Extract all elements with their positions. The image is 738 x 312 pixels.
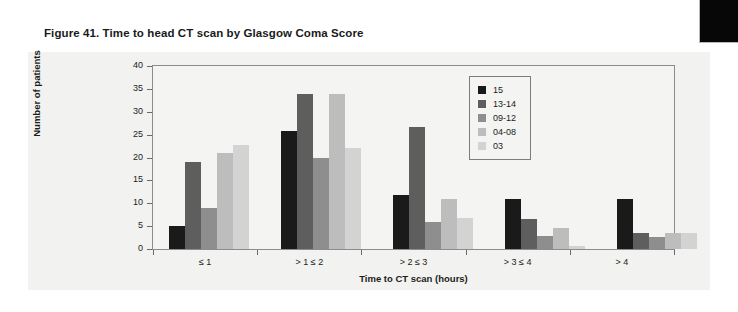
y-tick: 15 — [28, 180, 152, 181]
x-tick-mark — [361, 250, 362, 255]
legend-swatch-icon — [478, 100, 486, 108]
x-tick-label: > 3 ≤ 4 — [466, 257, 570, 267]
y-tick: 10 — [28, 203, 152, 204]
bar-04-08-> 3 ≤ 4[interactable] — [553, 228, 569, 250]
legend-item[interactable]: 15 — [478, 83, 516, 97]
y-tick: 5 — [28, 226, 152, 227]
y-tick-label: 35 — [133, 83, 143, 93]
x-tick-mark — [153, 250, 154, 255]
bar-04-08-> 2 ≤ 3[interactable] — [441, 199, 457, 249]
x-tick-label: > 4 — [570, 257, 674, 267]
x-tick-mark — [570, 250, 571, 255]
bar-group — [265, 66, 377, 249]
y-tick-label: 40 — [133, 60, 143, 70]
y-tick: 20 — [28, 158, 152, 159]
y-axis-ticks: 0510152025303540 — [28, 52, 152, 237]
x-tick-label: ≤ 1 — [153, 257, 257, 267]
figure-title: Figure 41. Time to head CT scan by Glasg… — [44, 27, 364, 39]
x-tick-mark — [257, 250, 258, 255]
legend-swatch-icon — [478, 86, 486, 94]
y-tick-label: 5 — [138, 220, 143, 230]
y-tick: 25 — [28, 135, 152, 136]
bar-15-≤ 1[interactable] — [169, 226, 185, 249]
legend-item[interactable]: 09-12 — [478, 111, 516, 125]
bar-03-> 4[interactable] — [681, 233, 697, 249]
plot-area — [153, 66, 674, 249]
bar-15-> 3 ≤ 4[interactable] — [505, 199, 521, 249]
x-axis-title: Time to CT scan (hours) — [153, 273, 674, 284]
bar-09-12-> 4[interactable] — [649, 237, 665, 249]
legend-label: 15 — [493, 85, 503, 95]
bar-04-08-> 1 ≤ 2[interactable] — [329, 94, 345, 249]
legend-item[interactable]: 03 — [478, 139, 516, 153]
y-tick-label: 15 — [133, 174, 143, 184]
x-tick-mark — [466, 250, 467, 255]
bar-03-> 1 ≤ 2[interactable] — [345, 148, 361, 249]
y-tick: 35 — [28, 89, 152, 90]
legend-label: 13-14 — [493, 99, 516, 109]
chart-legend: 1513-1409-1204-0803 — [469, 76, 531, 160]
legend-swatch-icon — [478, 142, 486, 150]
y-tick: 40 — [28, 66, 152, 67]
legend-item[interactable]: 13-14 — [478, 97, 516, 111]
y-tick: 30 — [28, 112, 152, 113]
legend-label: 04-08 — [493, 127, 516, 137]
bar-group — [153, 66, 265, 249]
bar-groups — [153, 66, 674, 249]
legend-label: 09-12 — [493, 113, 516, 123]
bar-13-14-> 2 ≤ 3[interactable] — [409, 127, 425, 249]
x-tick-label: > 2 ≤ 3 — [361, 257, 465, 267]
bar-03-> 3 ≤ 4[interactable] — [569, 246, 585, 249]
x-axis-ticks — [152, 250, 675, 256]
bar-13-14-≤ 1[interactable] — [185, 162, 201, 249]
x-tick-mark — [674, 250, 675, 255]
bar-09-12-> 1 ≤ 2[interactable] — [313, 158, 329, 249]
bar-03-> 2 ≤ 3[interactable] — [457, 218, 473, 249]
bar-03-≤ 1[interactable] — [233, 145, 249, 249]
bar-15-> 1 ≤ 2[interactable] — [281, 131, 297, 249]
bar-04-08-> 4[interactable] — [665, 233, 681, 249]
bar-13-14-> 3 ≤ 4[interactable] — [521, 219, 537, 249]
y-tick-label: 0 — [138, 243, 143, 253]
bar-04-08-≤ 1[interactable] — [217, 153, 233, 249]
bar-15-> 2 ≤ 3[interactable] — [393, 195, 409, 249]
y-tick-label: 10 — [133, 197, 143, 207]
scan-artifact — [699, 0, 738, 43]
legend-swatch-icon — [478, 128, 486, 136]
x-tick-label: > 1 ≤ 2 — [257, 257, 361, 267]
y-tick-label: 30 — [133, 106, 143, 116]
legend-swatch-icon — [478, 114, 486, 122]
chart-panel: Number of patients 0510152025303540 ≤ 1>… — [28, 52, 710, 290]
bar-13-14-> 1 ≤ 2[interactable] — [297, 94, 313, 249]
y-tick-label: 25 — [133, 129, 143, 139]
y-tick-label: 20 — [133, 152, 143, 162]
bar-09-12-≤ 1[interactable] — [201, 208, 217, 249]
bar-09-12-> 2 ≤ 3[interactable] — [425, 222, 441, 249]
bar-09-12-> 3 ≤ 4[interactable] — [537, 236, 553, 249]
x-axis-labels: ≤ 1> 1 ≤ 2> 2 ≤ 3> 3 ≤ 4> 4 — [153, 257, 674, 267]
bar-13-14-> 4[interactable] — [633, 233, 649, 249]
legend-item[interactable]: 04-08 — [478, 125, 516, 139]
bar-group — [601, 66, 713, 249]
bar-15-> 4[interactable] — [617, 199, 633, 249]
y-tick: 0 — [28, 249, 152, 250]
legend-label: 03 — [493, 141, 503, 151]
